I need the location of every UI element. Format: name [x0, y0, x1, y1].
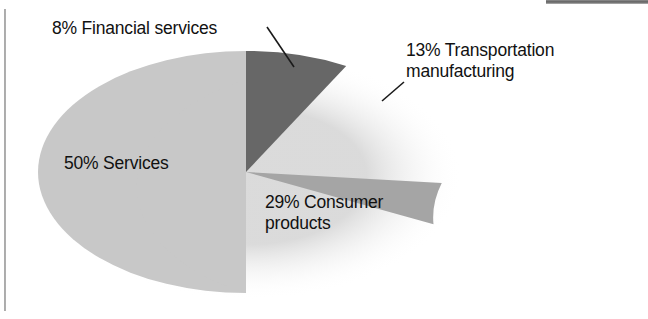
pie-label-consumer-products: 29% Consumer products	[265, 192, 383, 234]
page-canvas: 8% Financial services 13% Transportation…	[0, 0, 648, 319]
pie-chart: 8% Financial services 13% Transportation…	[0, 0, 648, 319]
pie-label-transportation: 13% Transportation manufacturing	[406, 40, 554, 82]
pie-label-services: 50% Services	[64, 153, 169, 174]
pie-label-financial-services: 8% Financial services	[52, 18, 217, 39]
